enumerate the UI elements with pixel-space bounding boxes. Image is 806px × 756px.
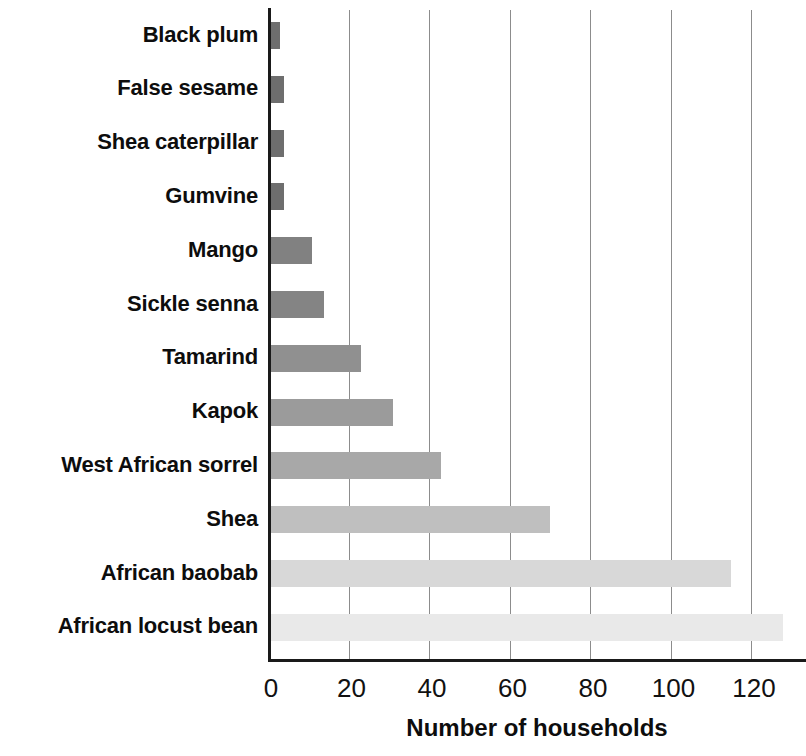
value-axis-line [268, 8, 271, 662]
value-axis-tick-labels: 020406080100120 [0, 672, 806, 708]
category-label: Black plum [0, 22, 258, 48]
value-tick-label: 20 [337, 672, 366, 704]
x-axis-title: Number of households [268, 714, 806, 742]
baseline-axis [268, 659, 806, 662]
value-tick-label: 80 [579, 672, 608, 704]
bar [268, 291, 324, 318]
category-label: West African sorrel [0, 452, 258, 478]
category-label: False sesame [0, 75, 258, 101]
bar [268, 614, 783, 641]
bar [268, 237, 312, 264]
bar [268, 345, 361, 372]
horizontal-bar-chart: Black plumFalse sesameShea caterpillarGu… [0, 0, 806, 756]
value-tick-label: 0 [264, 672, 278, 704]
value-tick-label: 60 [498, 672, 527, 704]
category-label: African baobab [0, 560, 258, 586]
category-label: Sickle senna [0, 291, 258, 317]
bar [268, 560, 731, 587]
bar [268, 399, 393, 426]
category-label: Mango [0, 237, 258, 263]
bar [268, 452, 441, 479]
category-label: African locust bean [0, 613, 258, 639]
category-label: Shea [0, 506, 258, 532]
category-label: Tamarind [0, 344, 258, 370]
category-label: Shea caterpillar [0, 129, 258, 155]
value-tick-label: 120 [732, 672, 775, 704]
plot-area [268, 10, 806, 660]
category-label: Kapok [0, 398, 258, 424]
bar [268, 506, 550, 533]
category-axis: Black plumFalse sesameShea caterpillarGu… [0, 10, 258, 660]
value-tick-label: 100 [652, 672, 695, 704]
value-tick-label: 40 [418, 672, 447, 704]
gridline [751, 10, 752, 660]
category-label: Gumvine [0, 183, 258, 209]
